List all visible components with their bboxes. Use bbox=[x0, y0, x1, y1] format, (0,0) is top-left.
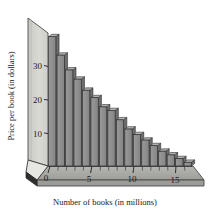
chart-container: 30 20 10 0 5 10 15 Number of books (in m… bbox=[0, 0, 210, 217]
bar-front-face bbox=[125, 129, 132, 166]
bar-front-face bbox=[116, 120, 123, 166]
bar bbox=[184, 160, 194, 166]
bar-front-face bbox=[74, 79, 81, 166]
x-tick-label-10: 10 bbox=[128, 174, 138, 184]
x-tick-label-0: 0 bbox=[44, 173, 49, 183]
y-tick-label-30: 30 bbox=[33, 61, 43, 71]
x-tick-label-15: 15 bbox=[171, 175, 181, 185]
bar-front-face bbox=[82, 90, 89, 166]
y-tick-label-20: 20 bbox=[33, 95, 43, 105]
bar-front-face bbox=[66, 70, 73, 166]
bar-front-face bbox=[99, 107, 106, 166]
bar-front-face bbox=[108, 111, 115, 166]
bar-series-group bbox=[49, 34, 195, 166]
histogram-3d-svg: 30 20 10 0 5 10 15 Number of books (in m… bbox=[0, 0, 210, 217]
bar-front-face bbox=[49, 37, 56, 166]
bar-front-face bbox=[91, 98, 98, 166]
bar-front-face bbox=[133, 135, 140, 166]
bar-front-face bbox=[167, 155, 174, 166]
bar-front-face bbox=[57, 55, 64, 166]
x-axis-title: Number of books (in millions) bbox=[53, 197, 157, 207]
bar-front-face bbox=[176, 159, 183, 166]
y-tick-label-10: 10 bbox=[33, 129, 43, 139]
bar-front-face bbox=[142, 140, 149, 166]
x-tick-label-5: 5 bbox=[87, 174, 92, 184]
bar-front-face bbox=[184, 162, 191, 166]
bar-front-face bbox=[159, 151, 166, 166]
bar-front-face bbox=[150, 146, 157, 166]
y-axis-wall bbox=[28, 18, 48, 166]
y-axis-title: Price per book (in dollars) bbox=[6, 51, 16, 140]
